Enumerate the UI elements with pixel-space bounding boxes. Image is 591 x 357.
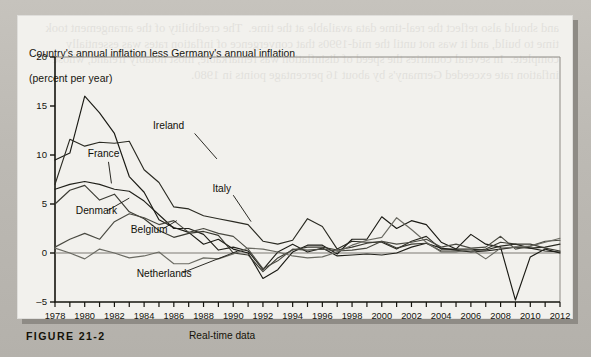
plot-area: –505101520 19781980198219841986198819901… <box>17 15 573 319</box>
svg-text:1998: 1998 <box>342 311 363 320</box>
figure-panel: and should also reflect the real-time da… <box>17 15 573 319</box>
svg-text:1986: 1986 <box>163 311 184 320</box>
series-label-ireland: Ireland <box>153 120 184 131</box>
svg-text:20: 20 <box>36 51 47 62</box>
svg-text:2004: 2004 <box>431 311 452 320</box>
svg-text:2010: 2010 <box>520 311 541 320</box>
svg-text:2012: 2012 <box>550 311 571 320</box>
svg-text:1980: 1980 <box>74 311 95 320</box>
leader-line-france <box>108 162 111 184</box>
svg-text:2006: 2006 <box>461 311 482 320</box>
svg-text:1990: 1990 <box>223 311 244 320</box>
svg-text:1988: 1988 <box>193 311 214 320</box>
figure-number: FIGURE 21-2 <box>26 330 106 342</box>
series-label-netherlands: Netherlands <box>137 268 192 279</box>
series-label-denmark: Denmark <box>76 205 118 216</box>
svg-text:5: 5 <box>42 198 47 209</box>
svg-text:1992: 1992 <box>253 311 274 320</box>
figure-caption: FIGURE 21-2 Real-time data <box>26 330 566 352</box>
axis-ticks <box>50 57 560 307</box>
svg-text:1984: 1984 <box>134 311 155 320</box>
svg-text:1994: 1994 <box>282 311 303 320</box>
svg-text:2000: 2000 <box>371 311 392 320</box>
svg-text:0: 0 <box>42 247 47 258</box>
svg-text:10: 10 <box>36 149 47 160</box>
series-line-belgium <box>55 214 560 269</box>
series-lines <box>55 96 560 300</box>
svg-text:2002: 2002 <box>401 311 422 320</box>
plot-frame <box>55 57 560 302</box>
x-axis-labels: 1978198019821984198619881990199219941996… <box>45 311 571 320</box>
figure-subtitle: Real-time data <box>189 330 255 341</box>
series-label-italy: Italy <box>212 183 232 194</box>
series-label-belgium: Belgium <box>131 224 168 235</box>
svg-text:1978: 1978 <box>45 311 66 320</box>
leader-line-italy <box>233 195 251 221</box>
inflation-differential-line-chart: –505101520 19781980198219841986198819901… <box>17 15 573 319</box>
svg-text:–5: –5 <box>36 296 47 307</box>
svg-text:2008: 2008 <box>490 311 511 320</box>
svg-text:15: 15 <box>36 100 47 111</box>
svg-text:1982: 1982 <box>104 311 125 320</box>
series-label-france: France <box>88 148 120 159</box>
leader-line-netherlands <box>183 251 238 273</box>
series-line-ireland <box>55 96 560 300</box>
leader-line-ireland <box>195 133 217 158</box>
svg-text:1996: 1996 <box>312 311 333 320</box>
y-axis-labels: –505101520 <box>36 51 47 307</box>
